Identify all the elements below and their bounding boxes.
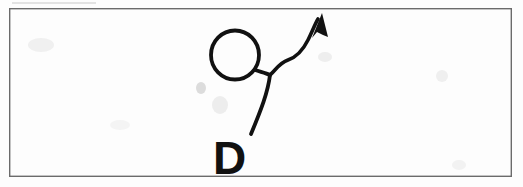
scan-smudge (318, 52, 332, 62)
scan-smudge (436, 70, 448, 82)
paper-background (0, 0, 523, 187)
handwritten-letter-D: D (213, 132, 246, 184)
scan-smudge (110, 120, 130, 130)
scanned-image-page: D D Scanned hand-drawn sketch inside a r… (0, 0, 523, 187)
scan-smudge (452, 160, 466, 170)
scan-smudge (196, 82, 206, 94)
sketch-canvas: D (0, 0, 523, 187)
scan-smudge (28, 38, 54, 52)
scan-smudge (212, 96, 228, 114)
